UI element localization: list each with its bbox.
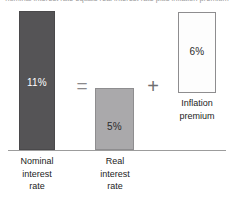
category-label-real-line1: Real [80,155,150,168]
interest-rate-decomposition-figure: nominal interest rate equals real intere… [0,0,234,205]
category-label-nominal: Nominal interest rate [2,155,72,193]
category-label-real-line3: rate [80,180,150,193]
category-label-nominal-line2: interest [2,168,72,181]
category-label-nominal-line3: rate [2,180,72,193]
bar-real-interest-rate: 5% [95,88,134,150]
plus-operator: + [143,76,163,96]
bar-nominal-interest-rate: 11% [19,11,55,150]
bar-value-inflation: 6% [179,46,215,57]
category-label-real-line2: interest [80,168,150,181]
bar-value-real: 5% [96,121,133,132]
category-label-inflation-line1: Inflation [162,97,232,110]
figure-caption-cutoff: nominal interest rate equals real intere… [0,0,234,5]
category-label-nominal-line1: Nominal [2,155,72,168]
axis-baseline [8,150,226,151]
category-label-inflation-line2: premium [162,110,232,123]
equals-operator: = [72,76,92,95]
bar-value-nominal: 11% [20,77,54,88]
category-label-inflation: Inflation premium [162,97,232,122]
bar-inflation-premium: 6% [178,12,216,93]
category-label-real: Real interest rate [80,155,150,193]
